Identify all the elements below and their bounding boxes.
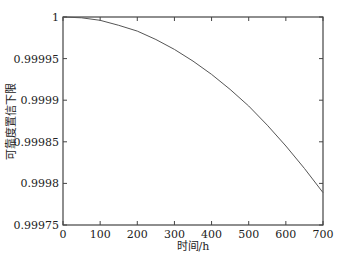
y-axis-ticks: 0.999750.99980.999850.99990.999951 bbox=[14, 11, 324, 232]
x-tick-label: 500 bbox=[238, 228, 259, 241]
y-axis-label: 可靠度置信下限 bbox=[4, 83, 18, 160]
x-axis-ticks: 0100200300400500600700 bbox=[60, 17, 334, 241]
y-tick-label: 0.9999 bbox=[21, 94, 60, 107]
x-tick-label: 200 bbox=[127, 228, 148, 241]
x-tick-label: 0 bbox=[60, 228, 67, 241]
plot-border bbox=[63, 17, 323, 225]
x-tick-label: 700 bbox=[313, 228, 334, 241]
x-axis-label: 时间/h bbox=[177, 240, 210, 253]
reliability-chart: 0100200300400500600700 0.999750.99980.99… bbox=[0, 0, 337, 260]
x-tick-label: 600 bbox=[275, 228, 296, 241]
y-tick-label: 0.99975 bbox=[14, 219, 60, 232]
y-tick-label: 1 bbox=[52, 11, 59, 24]
y-tick-label: 0.99985 bbox=[14, 136, 60, 149]
x-tick-label: 100 bbox=[90, 228, 111, 241]
plot-frame bbox=[63, 17, 323, 225]
data-series bbox=[63, 17, 323, 193]
y-tick-label: 0.99995 bbox=[14, 53, 60, 66]
reliability-curve bbox=[63, 17, 323, 193]
y-tick-label: 0.9998 bbox=[21, 177, 60, 190]
